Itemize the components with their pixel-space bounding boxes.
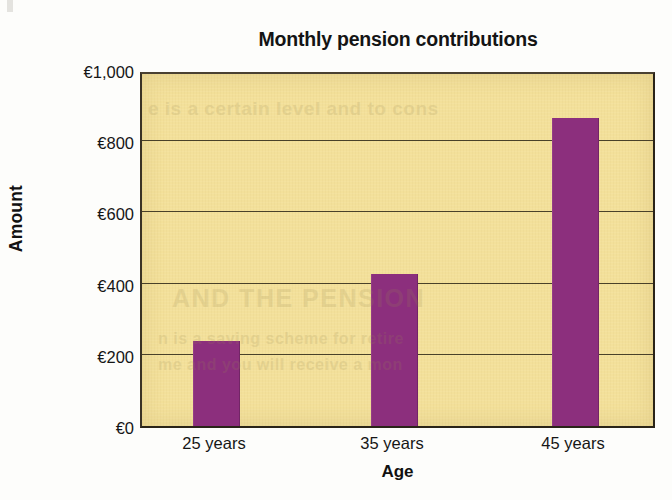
bar-45-years [552, 118, 599, 426]
y-tick-label: €200 [97, 347, 134, 366]
scan-artifact [7, 0, 13, 12]
x-tick-label: 35 years [360, 434, 423, 453]
plot-inner [142, 74, 653, 426]
plot-area [140, 72, 655, 428]
y-axis-ticks: €0€200€400€600€800€1,000 [44, 72, 134, 428]
x-tick-label: 25 years [182, 434, 245, 453]
bar-25-years [193, 341, 240, 426]
y-tick-label: €0 [116, 419, 134, 438]
y-tick-label: €600 [97, 205, 134, 224]
bar-35-years [371, 274, 418, 426]
x-tick-label: 45 years [541, 434, 604, 453]
x-axis-title: Age [140, 462, 655, 482]
chart-figure: e is a certain level and to cons AND THE… [0, 0, 672, 500]
y-axis-title: Amount [6, 159, 27, 279]
y-tick-label: €800 [97, 134, 134, 153]
y-tick-label: €1,000 [84, 63, 134, 82]
chart-title: Monthly pension contributions [140, 28, 656, 51]
y-tick-label: €400 [97, 276, 134, 295]
